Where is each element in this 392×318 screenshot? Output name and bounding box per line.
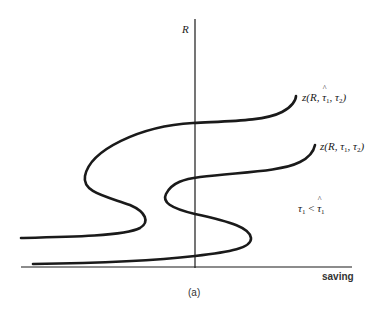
curve-lower <box>33 145 315 264</box>
curve-upper-label-prefix: z(R, <box>302 91 322 103</box>
condition-right-symbol: τ <box>317 203 321 214</box>
curve-lower-label: z(R, τ1, τ2) <box>320 141 364 154</box>
y-axis-label: R <box>182 24 189 35</box>
condition-right-sub: 1 <box>321 208 325 216</box>
curve-lower-label-prefix: z(R, τ <box>320 140 344 152</box>
x-axis-label: saving <box>322 272 354 282</box>
curve-upper <box>21 96 296 238</box>
condition-relation: < <box>308 202 314 214</box>
curve-lower-label-mid: , τ <box>348 140 357 152</box>
curve-lower-label-suffix: ) <box>361 140 365 152</box>
curve-upper-label-mid: , τ <box>330 91 339 103</box>
condition-note: τ1 < τ1 <box>298 203 325 216</box>
tau-hat-symbol: τ <box>322 92 326 103</box>
condition-left-sub: 1 <box>302 208 306 216</box>
curve-upper-label-suffix: ) <box>343 91 347 103</box>
panel-label: (a) <box>188 288 200 298</box>
curve-upper-label: z(R, τ1, τ2) <box>302 92 346 105</box>
